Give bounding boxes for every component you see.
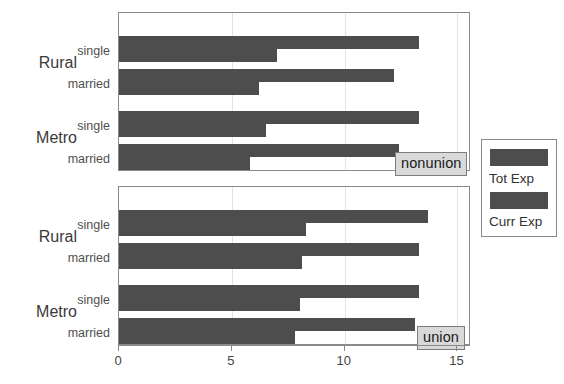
bar-union-metro-married-curr-exp bbox=[119, 331, 295, 344]
bar-nonunion-rural-married-tot-exp bbox=[119, 69, 394, 82]
bar-nonunion-rural-married-curr-exp bbox=[119, 82, 259, 95]
bar-nonunion-rural-single-curr-exp bbox=[119, 49, 277, 62]
bar-nonunion-metro-single-tot-exp bbox=[119, 111, 419, 124]
x-tick-5 bbox=[231, 345, 232, 351]
y-label-region-rural-nonunion: Rural bbox=[7, 54, 77, 72]
bar-nonunion-metro-married-curr-exp bbox=[119, 157, 250, 170]
strip-label-nonunion: nonunion bbox=[395, 152, 467, 176]
gridline-x-15 bbox=[457, 187, 458, 344]
bar-nonunion-rural-single-tot-exp bbox=[119, 36, 419, 49]
plot-area-union bbox=[119, 187, 469, 344]
bar-union-metro-single-tot-exp bbox=[119, 285, 419, 298]
plot-area-nonunion bbox=[119, 13, 469, 170]
x-axis: 051015 bbox=[118, 345, 470, 379]
y-label-metro-married-nonunion: married bbox=[50, 152, 110, 166]
x-tick-label-10: 10 bbox=[336, 353, 350, 368]
legend-label-curr-exp: Curr Exp bbox=[489, 214, 542, 229]
bar-union-rural-single-tot-exp bbox=[119, 210, 428, 223]
bar-union-metro-married-tot-exp bbox=[119, 318, 415, 331]
y-label-metro-married-union: married bbox=[50, 326, 110, 340]
x-tick-label-0: 0 bbox=[114, 353, 121, 368]
y-label-region-metro-union: Metro bbox=[7, 303, 77, 321]
x-tick-10 bbox=[344, 345, 345, 351]
legend-swatch-tot-exp bbox=[490, 149, 548, 166]
x-axis-line bbox=[118, 345, 470, 346]
x-tick-label-15: 15 bbox=[449, 353, 463, 368]
y-label-region-rural-union: Rural bbox=[7, 228, 77, 246]
y-label-rural-married-nonunion: married bbox=[50, 77, 110, 91]
panel-nonunion bbox=[118, 12, 470, 171]
bar-nonunion-metro-married-tot-exp bbox=[119, 144, 399, 157]
bar-union-metro-single-curr-exp bbox=[119, 298, 300, 311]
bar-union-rural-single-curr-exp bbox=[119, 223, 306, 236]
x-tick-0 bbox=[118, 345, 119, 351]
y-label-rural-married-union: married bbox=[50, 251, 110, 265]
bar-union-rural-married-tot-exp bbox=[119, 243, 419, 256]
bar-union-rural-married-curr-exp bbox=[119, 256, 302, 269]
x-tick-15 bbox=[456, 345, 457, 351]
trellis-bar-chart: single married Rural single married Metr… bbox=[0, 0, 564, 384]
legend-label-tot-exp: Tot Exp bbox=[489, 171, 534, 186]
bar-nonunion-metro-single-curr-exp bbox=[119, 124, 266, 137]
legend: Tot Exp Curr Exp bbox=[481, 139, 557, 237]
gridline-x-15 bbox=[457, 13, 458, 170]
x-tick-label-5: 5 bbox=[227, 353, 234, 368]
panel-union bbox=[118, 186, 470, 345]
legend-swatch-curr-exp bbox=[490, 192, 548, 209]
y-label-region-metro-nonunion: Metro bbox=[7, 129, 77, 147]
